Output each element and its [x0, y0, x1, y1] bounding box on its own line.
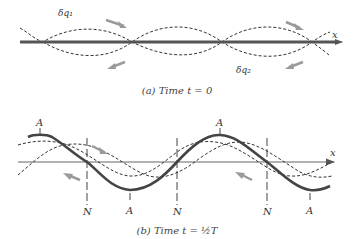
motion-arrow-right-icon	[286, 22, 304, 30]
caption-a: (a) Time t = 0	[142, 85, 213, 96]
antinode-label: A	[125, 205, 133, 216]
motion-arrow-left-icon	[235, 172, 252, 180]
standing-wave-diagram: x δq₁ δq₂ (a) Time t = 0 x	[0, 0, 355, 239]
caption-b: (b) Time t = ½T	[137, 225, 219, 236]
panel-a: x δq₁ δq₂ (a) Time t = 0	[20, 8, 342, 96]
label-dq2: δq₂	[236, 65, 251, 75]
node-label: N	[172, 206, 183, 217]
axis-label-x-a: x	[332, 29, 338, 40]
antinode-label: A	[35, 117, 43, 128]
motion-arrow-left-icon	[63, 173, 80, 180]
axis-label-x-b: x	[330, 147, 336, 158]
node-label: N	[262, 206, 273, 217]
antinode-label: A	[215, 117, 223, 128]
motion-arrow-left-icon	[107, 62, 125, 69]
panel-b: x A A N A N N	[18, 117, 336, 236]
label-dq1: δq₁	[58, 8, 73, 18]
antinode-label: A	[305, 205, 313, 216]
node-label: N	[82, 206, 93, 217]
motion-arrow-left-icon	[285, 62, 303, 69]
motion-arrow-right-icon	[92, 146, 108, 154]
motion-arrow-right-icon	[106, 20, 127, 28]
